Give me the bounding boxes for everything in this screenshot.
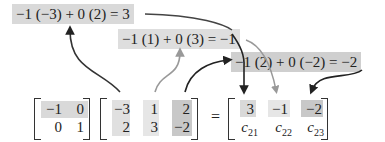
arrow-eq2-to-c22 [246, 40, 276, 90]
b12: 1 [136, 100, 158, 118]
c23-label: c23 [298, 118, 324, 142]
equals-sign: = [211, 108, 220, 126]
c-row1-1: 3 [232, 100, 254, 118]
c-row1-3: −2 [300, 100, 322, 118]
b22: 3 [136, 118, 158, 136]
a11: −1 [40, 100, 62, 118]
b11: −3 [108, 100, 130, 118]
matrix-b: −3 1 2 2 3 −2 [100, 98, 198, 138]
b23: −2 [168, 118, 190, 136]
c21-label: c21 [232, 118, 258, 142]
b13: 2 [168, 100, 190, 118]
c22-label: c22 [266, 118, 292, 142]
arrow-eq3-to-c23 [312, 70, 362, 90]
c-row1-2: −1 [266, 100, 288, 118]
matrix-c: 3 −1 −2 c21 c22 c23 [228, 98, 328, 138]
arrow-col3-to-eq3 [185, 60, 228, 92]
a22: 1 [62, 118, 84, 136]
matrix-a: −1 0 0 1 [34, 98, 90, 138]
arrow-eq1-to-c21 [145, 14, 232, 30]
a12: 0 [62, 100, 84, 118]
arrow-col1-to-eq1 [70, 30, 120, 92]
a21: 0 [40, 118, 62, 136]
arrow-col2-to-eq2 [155, 52, 180, 92]
b21: 2 [108, 118, 130, 136]
